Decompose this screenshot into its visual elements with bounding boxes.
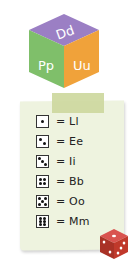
key-label: = Ii (56, 155, 76, 168)
cube-right-label: Uu (73, 58, 91, 73)
die-face-five-icon (36, 195, 49, 208)
key-row-6: = Mm (36, 212, 90, 231)
die-face-four-icon (36, 175, 49, 188)
die-face-three-icon (36, 155, 49, 168)
die-face-one-icon (36, 115, 49, 128)
key-row-5: = Oo (36, 192, 90, 211)
key-row-2: = Ee (36, 132, 90, 151)
cube-left-label: Pp (38, 58, 54, 73)
die-face-two-icon (36, 135, 49, 148)
tape-strip (52, 93, 104, 113)
key-label: = Bb (56, 175, 84, 188)
die-face-six-icon (36, 215, 49, 228)
key-label: = Mm (56, 215, 90, 228)
red-die-icon (99, 228, 129, 260)
letter-cube: Dd Pp Uu (27, 12, 101, 90)
key-label: = Oo (56, 195, 85, 208)
key-row-4: = Bb (36, 172, 90, 191)
key-label: = Ll (56, 115, 79, 128)
key-row-1: = Ll (36, 112, 90, 131)
dice-key-list: = Ll = Ee = Ii = Bb = Oo = Mm (36, 112, 90, 232)
key-label: = Ee (56, 135, 83, 148)
key-row-3: = Ii (36, 152, 90, 171)
